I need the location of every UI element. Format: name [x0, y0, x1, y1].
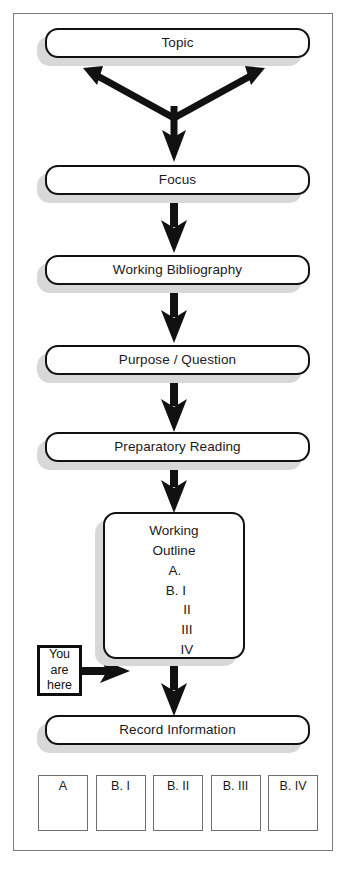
working-outline-heading-2: Outline [153, 541, 196, 561]
stage-working-outline[interactable]: Working Outline A. B. I II III IV [103, 512, 245, 659]
working-outline-item-a: A. [169, 561, 182, 581]
stage-preparatory-reading-label: Preparatory Reading [114, 440, 240, 454]
note-card-b2-label: B. II [167, 780, 189, 794]
you-are-here-callout: You are here [37, 645, 82, 696]
note-card-b1[interactable]: B. I [96, 775, 146, 831]
stage-topic[interactable]: Topic [45, 28, 310, 58]
you-are-here-line-1: You [49, 647, 70, 663]
stage-record-information[interactable]: Record Information [45, 715, 310, 745]
note-card-b2[interactable]: B. II [153, 775, 203, 831]
note-card-b3[interactable]: B. III [211, 775, 261, 831]
note-card-b3-label: B. III [223, 780, 249, 794]
working-outline-item-b4: IV [181, 640, 194, 660]
note-card-a[interactable]: A [38, 775, 88, 831]
note-card-b4-label: B. IV [279, 780, 306, 794]
stage-working-bibliography-label: Working Bibliography [113, 263, 242, 277]
note-card-a-label: A [59, 780, 67, 794]
stage-preparatory-reading[interactable]: Preparatory Reading [45, 432, 310, 462]
note-card-b1-label: B. I [111, 780, 130, 794]
stage-record-information-label: Record Information [119, 723, 236, 737]
stage-focus[interactable]: Focus [45, 165, 310, 195]
you-are-here-line-3: here [47, 678, 72, 694]
working-outline-item-b3: III [181, 620, 192, 640]
working-outline-item-b2: II [183, 600, 191, 620]
stage-topic-label: Topic [161, 36, 193, 50]
stage-working-bibliography[interactable]: Working Bibliography [45, 255, 310, 285]
you-are-here-line-2: are [50, 663, 68, 679]
stage-purpose-question[interactable]: Purpose / Question [45, 345, 310, 375]
working-outline-heading-1: Working [149, 521, 198, 541]
flowchart-page: Topic Focus Working Bibliography Purpose… [0, 0, 348, 877]
working-outline-item-b1: B. I [166, 581, 186, 601]
stage-purpose-question-label: Purpose / Question [119, 353, 236, 367]
note-card-b4[interactable]: B. IV [268, 775, 318, 831]
note-card-row: A B. I B. II B. III B. IV [38, 775, 318, 831]
stage-focus-label: Focus [159, 173, 196, 187]
